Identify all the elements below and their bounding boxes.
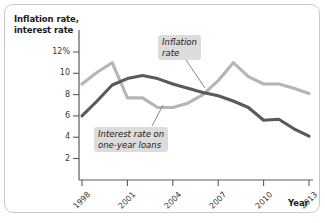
y-tick-label-2: 2	[42, 154, 70, 163]
annotation-inflation-rate-line-2: rate	[162, 48, 197, 59]
y-tick-label-4: 4	[42, 132, 70, 141]
y-axis-title: Inflation rate,interest rate	[14, 14, 79, 36]
y-axis-ticks	[73, 52, 79, 159]
y-axis-title-line-2: interest rate	[14, 25, 79, 36]
y-tick-label-6: 6	[42, 111, 70, 120]
leader-line-inflation-rate	[186, 60, 205, 88]
y-tick-label-12: 12%	[42, 47, 70, 56]
y-tick-label-10: 10	[42, 68, 70, 77]
annotation-inflation-rate: Inflation rate	[158, 35, 201, 60]
chart-figure: Inflation rate,interest rate Year 12% 10…	[0, 0, 325, 223]
y-tick-label-8: 8	[42, 90, 70, 99]
series-line-inflation-rate	[82, 63, 309, 108]
annotation-inflation-rate-line-1: Inflation	[162, 37, 197, 48]
y-axis-title-line-1: Inflation rate,	[14, 14, 79, 25]
x-axis-ticks	[82, 180, 309, 186]
annotation-interest-rate-line-2: one-year loans	[98, 140, 164, 151]
annotation-interest-rate-line-1: Interest rate on	[98, 129, 164, 140]
annotation-interest-rate: Interest rate on one-year loans	[94, 127, 168, 152]
